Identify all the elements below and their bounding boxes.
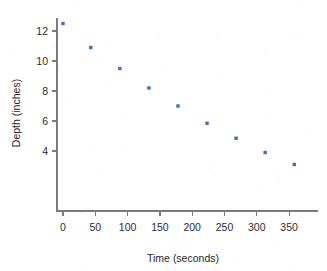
data-point [293, 163, 296, 166]
x-axis-title: Time (seconds) [147, 252, 219, 264]
axes-layer [57, 18, 318, 211]
data-point [234, 137, 237, 140]
y-tick-label: 10 [36, 55, 48, 67]
x-tick-label: 50 [89, 221, 101, 233]
tick-marks-layer [52, 31, 289, 216]
data-point [205, 122, 208, 125]
y-tick-label: 12 [36, 25, 48, 37]
scatter-plot-figure: 4681012050100150200250300350 Time (secon… [0, 0, 327, 271]
data-point [147, 86, 150, 89]
x-tick-label: 200 [183, 221, 201, 233]
data-point [118, 67, 121, 70]
x-tick-label: 250 [216, 221, 234, 233]
x-tick-label: 0 [60, 221, 66, 233]
y-tick-label: 8 [42, 85, 48, 97]
x-tick-label: 300 [248, 221, 266, 233]
tick-labels-layer: 4681012050100150200250300350 [36, 25, 298, 233]
data-point [89, 46, 92, 49]
y-tick-label: 6 [42, 115, 48, 127]
x-tick-label: 100 [119, 221, 137, 233]
x-tick-label: 150 [151, 221, 169, 233]
x-tick-label: 350 [280, 221, 298, 233]
data-points-layer [61, 22, 296, 166]
y-tick-label: 4 [42, 145, 48, 157]
data-point [61, 22, 64, 25]
data-point [264, 151, 267, 154]
data-point [176, 104, 179, 107]
chart-canvas: 4681012050100150200250300350 Time (secon… [0, 0, 327, 271]
y-axis-title: Depth (inches) [10, 79, 22, 147]
